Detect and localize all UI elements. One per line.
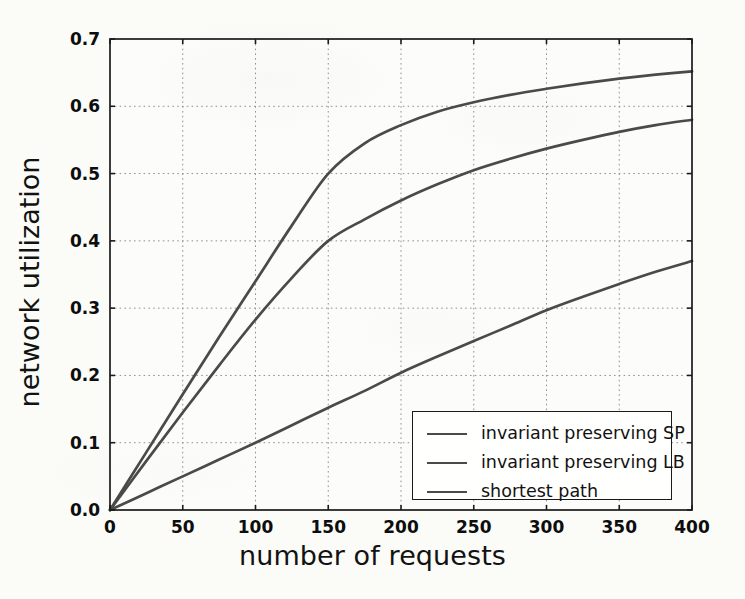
y-axis-label-wrapper: network utilization bbox=[14, 42, 54, 522]
line-chart bbox=[0, 0, 745, 599]
legend-line-swatch-0 bbox=[427, 433, 467, 435]
x-tick-label: 50 bbox=[153, 517, 213, 537]
legend-item-0[interactable]: invariant preserving SP bbox=[427, 422, 685, 446]
legend-item-2[interactable]: shortest path bbox=[427, 480, 598, 504]
legend-line-swatch-2 bbox=[427, 491, 467, 493]
x-axis-label: number of requests bbox=[0, 540, 745, 571]
legend-item-1[interactable]: invariant preserving LB bbox=[427, 451, 685, 475]
chart-legend: invariant preserving SP invariant preser… bbox=[412, 411, 672, 500]
y-axis-label: network utilization bbox=[14, 157, 45, 408]
legend-label-0: invariant preserving SP bbox=[481, 425, 685, 443]
legend-label-1: invariant preserving LB bbox=[481, 454, 685, 472]
x-tick-label: 350 bbox=[589, 517, 649, 537]
x-tick-label: 250 bbox=[444, 517, 504, 537]
x-tick-label: 100 bbox=[226, 517, 286, 537]
x-tick-label: 200 bbox=[371, 517, 431, 537]
legend-line-swatch-1 bbox=[427, 462, 467, 464]
x-tick-label: 300 bbox=[517, 517, 577, 537]
x-tick-label: 150 bbox=[298, 517, 358, 537]
legend-label-2: shortest path bbox=[481, 483, 598, 501]
x-tick-label: 400 bbox=[662, 517, 722, 537]
x-tick-label: 0 bbox=[80, 517, 140, 537]
